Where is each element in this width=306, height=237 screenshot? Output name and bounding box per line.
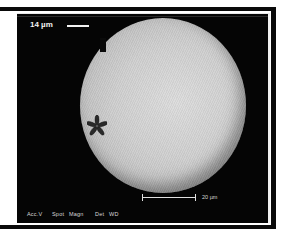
metadata-headers: Acc.V Spot Magn Det WD <box>27 210 138 218</box>
header-det: Det <box>95 210 109 218</box>
panel-inner-line <box>17 16 268 17</box>
header-accv: Acc.V <box>27 210 46 218</box>
top-scale-label: 14 µm <box>30 20 53 29</box>
sem-micrograph: 14 µm Acc.V Spot Magn Det WD 15.0 kV 4.0… <box>17 13 270 223</box>
header-magn: Magn <box>69 210 89 218</box>
header-spot: Spot <box>52 210 63 218</box>
bottom-frame-rule <box>0 225 276 229</box>
surface-notch <box>100 38 106 52</box>
top-frame-rule <box>0 7 276 11</box>
flower-defect-icon <box>87 115 107 137</box>
bottom-scale-label: 20 µm <box>202 194 217 200</box>
bottom-scale-bar <box>142 197 196 198</box>
header-wd: WD <box>109 210 123 218</box>
acquisition-metadata: Acc.V Spot Magn Det WD 15.0 kV 4.0 1100x… <box>27 194 138 223</box>
top-scale-bar <box>67 25 89 27</box>
right-frame-border <box>271 7 276 229</box>
